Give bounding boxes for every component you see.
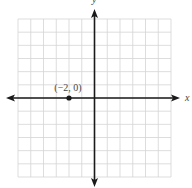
x-axis-label: x	[184, 92, 190, 103]
coordinate-plane: x y (−2, 0)	[0, 0, 192, 188]
data-point	[66, 95, 71, 100]
axes	[6, 9, 180, 187]
point-label: (−2, 0)	[54, 82, 81, 94]
y-axis-label: y	[91, 0, 97, 5]
